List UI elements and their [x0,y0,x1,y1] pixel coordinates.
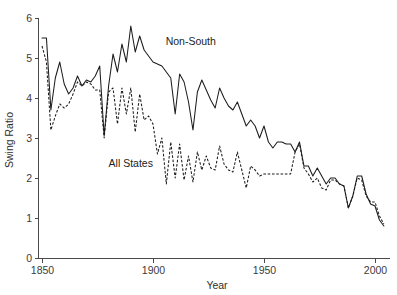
y-tick-label-5: 5 [26,52,32,64]
x-tick-label-2000: 2000 [364,264,388,276]
data-series [42,26,384,226]
x-tick-label-1950: 1950 [253,264,277,276]
series-line-non-south [42,26,384,226]
x-tick-label-1850: 1850 [31,264,55,276]
y-tick-label-1: 1 [26,212,32,224]
series-line-all-states [42,46,384,224]
y-tick-label-3: 3 [26,132,32,144]
axis-ticks [35,19,376,263]
chart-plot-area: 01234561850190019502000 Non-SouthAll Sta… [0,0,397,295]
y-axis-title: Swing Ratio [3,112,15,168]
y-tick-label-4: 4 [26,92,32,104]
x-tick-label-1900: 1900 [142,264,166,276]
swing-ratio-chart: 01234561850190019502000 Non-SouthAll Sta… [0,0,397,295]
axis-tick-labels: 01234561850190019502000 [26,12,387,276]
annotation-all-states: All States [109,157,153,169]
y-tick-label-0: 0 [26,252,32,264]
axes [39,18,391,259]
y-tick-label-6: 6 [26,12,32,24]
x-axis-title: Year [206,279,228,291]
y-tick-label-2: 2 [26,172,32,184]
annotation-non-south: Non-South [166,35,216,47]
